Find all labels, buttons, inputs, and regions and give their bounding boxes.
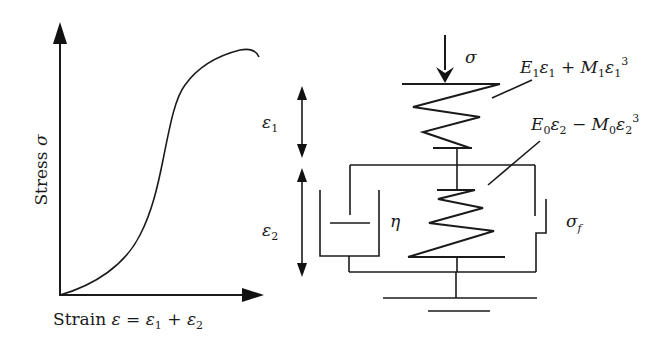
spring-2-label: E0ε2 − M0ε23 <box>530 112 639 137</box>
y-axis-label: Stress σ <box>31 134 51 206</box>
load-symbol: σ <box>465 47 477 67</box>
strain-2-arrow-down-icon <box>297 263 307 277</box>
stress-strain-graph: Strain ε = ε1 + ε2 Stress σ <box>31 22 264 332</box>
spring-1-leader-line <box>492 80 532 98</box>
x-axis-arrow-icon <box>242 288 264 302</box>
diagram-canvas: Strain ε = ε1 + ε2 Stress σ σ E1ε1 + M1ε… <box>0 0 666 345</box>
strain-2-label: ε2 <box>262 220 278 243</box>
dashpot-label: η <box>390 211 401 231</box>
rheological-model: σ E1ε1 + M1ε13 E0ε2 − M0ε23 η σf <box>262 35 639 311</box>
friction-label: σf <box>566 211 584 235</box>
stress-strain-curve <box>60 49 259 295</box>
spring-2 <box>408 190 494 257</box>
strain-1-arrow-up-icon <box>297 86 307 100</box>
friction-element <box>536 199 546 272</box>
y-axis-arrow-icon <box>53 22 67 44</box>
spring-1 <box>413 84 500 148</box>
x-axis-label: Strain ε = ε1 + ε2 <box>53 309 203 332</box>
strain-1-label: ε1 <box>262 112 278 135</box>
strain-2-arrow-up-icon <box>297 168 307 182</box>
spring-1-label: E1ε1 + M1ε13 <box>519 55 628 80</box>
strain-1-arrow-down-icon <box>297 144 307 158</box>
spring-2-leader-line <box>488 141 540 185</box>
